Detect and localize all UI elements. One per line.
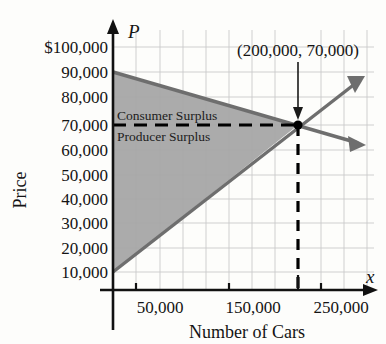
y-tick-label-60000: 60,000 [61,141,108,160]
equilibrium-point-dot [293,120,302,129]
y-tick-label-30000: 30,000 [61,214,108,233]
y-tick-label-70000: 70,000 [61,116,108,135]
y-tick-label-10000: 10,000 [61,263,108,282]
figure-canvas: $100,000 90,000 80,000 70,000 60,000 50,… [0,0,386,344]
producer-surplus-label: Producer Surplus [117,129,210,144]
y-axis-title: Price [10,171,30,208]
x-tick-label-150000: 150,000 [225,298,280,317]
consumer-surplus-label: Consumer Surplus [117,108,217,123]
y-tick-label-40000: 40,000 [61,190,108,209]
y-tick-label-100000: $100,000 [44,38,108,57]
surplus-shaded-region [113,72,298,272]
annotation-arrow-icon [293,62,303,120]
x-tick-label-50000: 50,000 [137,298,184,317]
x-axis-title: Number of Cars [189,322,305,342]
y-tick-label-90000: 90,000 [61,63,108,82]
x-tick-label-250000: 250,000 [313,298,368,317]
x-axis-letter-x: x [365,266,375,287]
x-axis-ticks [136,275,321,290]
y-tick-label-80000: 80,000 [61,88,108,107]
y-tick-label-20000: 20,000 [61,239,108,258]
equilibrium-annotation-label: (200,000, 70,000) [237,41,359,60]
y-axis-letter-P: P [127,21,140,42]
x-axis [100,284,378,296]
supply-demand-chart: $100,000 90,000 80,000 70,000 60,000 50,… [0,0,386,344]
y-tick-label-50000: 50,000 [61,166,108,185]
